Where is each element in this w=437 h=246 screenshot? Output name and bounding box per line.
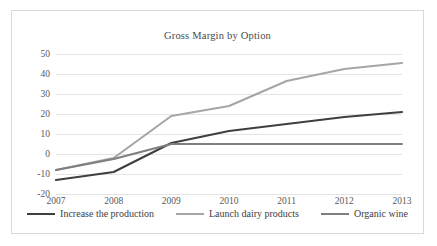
legend-item[interactable]: Organic wine	[321, 208, 408, 219]
x-axis-tick-label: 2013	[374, 196, 430, 206]
chart-frame: Gross Margin by Option 50403020100-10-20…	[11, 10, 424, 234]
gridline	[56, 194, 402, 195]
y-axis-tick-label: 20	[10, 109, 50, 119]
chart-legend: Increase the productionLaunch dairy prod…	[12, 208, 423, 219]
legend-swatch-icon	[176, 213, 204, 215]
y-axis-tick-label: -10	[10, 169, 50, 179]
legend-swatch-icon	[321, 213, 349, 215]
y-axis-tick-label: 50	[10, 49, 50, 59]
legend-item[interactable]: Launch dairy products	[176, 208, 299, 219]
y-axis-tick-label: 10	[10, 129, 50, 139]
series-lines	[56, 54, 402, 194]
series-line	[56, 112, 402, 180]
chart-title: Gross Margin by Option	[12, 30, 423, 41]
x-axis-tick-label: 2009	[143, 196, 199, 206]
y-axis-tick-label: 0	[10, 149, 50, 159]
legend-item[interactable]: Increase the production	[27, 208, 154, 219]
series-line	[56, 144, 402, 170]
legend-label: Organic wine	[354, 208, 408, 219]
legend-label: Launch dairy products	[209, 208, 299, 219]
x-axis-tick-label: 2008	[86, 196, 142, 206]
x-axis-tick-label: 2007	[28, 196, 84, 206]
legend-swatch-icon	[27, 213, 55, 215]
y-axis-tick-label: 30	[10, 89, 50, 99]
legend-label: Increase the production	[60, 208, 154, 219]
y-axis-tick-label: 40	[10, 69, 50, 79]
x-axis-tick-label: 2010	[201, 196, 257, 206]
x-axis-tick-label: 2011	[259, 196, 315, 206]
x-axis-tick-label: 2012	[316, 196, 372, 206]
plot-area: 50403020100-10-20 2007200820092010201120…	[56, 54, 402, 194]
